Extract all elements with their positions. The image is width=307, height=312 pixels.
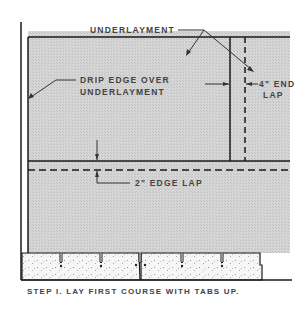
nail-dot	[144, 264, 146, 266]
drip-edge-label-line2: UNDERLAYMENT	[80, 87, 165, 97]
nail-dot	[100, 265, 102, 267]
nail-dot	[181, 265, 183, 267]
tab-cutout	[181, 253, 183, 263]
underlayment-area	[28, 31, 290, 253]
roofing-diagram: UNDERLAYMENT DRIP EDGE OVER UNDERLAYMENT…	[0, 0, 307, 312]
tab-cutout	[60, 253, 62, 263]
underlayment-label: UNDERLAYMENT	[90, 25, 175, 35]
shingle-strip-1	[22, 253, 140, 280]
edge-lap-label: 2" EDGE LAP	[135, 178, 203, 188]
first-course-shingles	[22, 253, 262, 280]
tab-cutout	[139, 253, 141, 263]
tab-cutout	[100, 253, 102, 263]
step-caption: STEP I. LAY FIRST COURSE WITH TABS UP.	[27, 287, 240, 296]
end-lap-label-line1: 4" END	[259, 79, 295, 89]
drip-edge-label-line1: DRIP EDGE OVER	[80, 75, 170, 85]
nail-dot	[135, 264, 137, 266]
nail-dot	[60, 265, 62, 267]
shingle-strip-2	[141, 253, 262, 280]
tab-cutout	[221, 253, 223, 263]
nail-dot	[221, 265, 223, 267]
end-lap-label-line2: LAP	[263, 90, 284, 100]
